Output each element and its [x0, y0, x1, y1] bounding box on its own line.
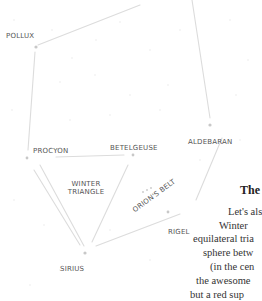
article-line-1: Let's also	[228, 206, 262, 218]
label-procyon: PROCYON	[33, 147, 68, 155]
star-map: POLLUX PROCYON BETELGEUSE ALDEBARAN RIGE…	[0, 0, 262, 301]
label-aldebaran: ALDEBARAN	[188, 138, 233, 146]
label-pollux: POLLUX	[6, 32, 34, 40]
label-betelgeuse: BETELGEUSE	[110, 144, 158, 152]
label-winter-triangle-line1: WINTER	[56, 180, 116, 188]
star-procyon	[26, 157, 29, 160]
belt-star-2	[146, 189, 148, 191]
star-pollux	[34, 45, 37, 48]
star-aldebaran	[208, 123, 211, 126]
article-line-6: the awesome	[196, 275, 251, 287]
article-heading: The	[240, 183, 260, 198]
article-line-4: sphere betw	[203, 247, 253, 259]
star-rigel	[167, 211, 170, 214]
article-line-5: (in the cen	[210, 261, 254, 273]
label-rigel: RIGEL	[168, 228, 190, 236]
article-line-3: equilateral tria	[193, 233, 254, 245]
belt-star-3	[150, 187, 152, 189]
article-line-7: but a red sup	[190, 289, 244, 301]
label-winter-triangle-line2: TRIANGLE	[56, 188, 116, 196]
belt-star-1	[142, 191, 144, 193]
article-line-2: Winter	[219, 220, 248, 232]
label-sirius: SIRIUS	[60, 265, 84, 273]
label-winter-triangle: WINTER TRIANGLE	[56, 180, 116, 196]
star-betelgeuse	[132, 154, 135, 157]
star-sirius	[83, 251, 86, 254]
